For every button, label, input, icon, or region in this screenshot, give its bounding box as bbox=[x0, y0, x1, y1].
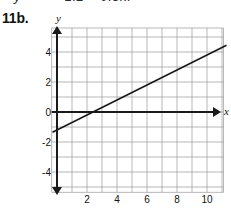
y-tick-label: -4 bbox=[42, 167, 51, 178]
grid-lines bbox=[52, 28, 224, 192]
x-tick-label: 4 bbox=[114, 194, 120, 205]
x-tick-label: 10 bbox=[201, 194, 213, 205]
x-axis-tick-labels: 246810 bbox=[84, 194, 213, 205]
y-axis-label: y bbox=[55, 12, 61, 24]
y-tick-label: -2 bbox=[42, 137, 51, 148]
y-tick-label: 0 bbox=[45, 107, 51, 118]
y-axis-arrow-down bbox=[52, 187, 62, 195]
data-line bbox=[53, 45, 227, 132]
x-axis-label: x bbox=[223, 105, 229, 117]
x-tick-label: 6 bbox=[144, 194, 150, 205]
plotted-line-series bbox=[53, 45, 227, 132]
y-axis-tick-labels: 420-2-4 bbox=[42, 47, 51, 178]
axes bbox=[52, 26, 221, 195]
y-tick-label: 4 bbox=[45, 47, 51, 58]
graph-svg: 246810 420-2-4 x y bbox=[0, 0, 231, 211]
x-tick-label: 2 bbox=[84, 194, 90, 205]
grid-border bbox=[52, 28, 224, 192]
x-tick-label: 8 bbox=[174, 194, 180, 205]
y-axis-arrow-up bbox=[52, 26, 62, 34]
x-axis-arrow-right bbox=[213, 107, 221, 117]
y-tick-label: 2 bbox=[45, 77, 51, 88]
coordinate-plane-graph: 246810 420-2-4 x y bbox=[0, 0, 231, 211]
